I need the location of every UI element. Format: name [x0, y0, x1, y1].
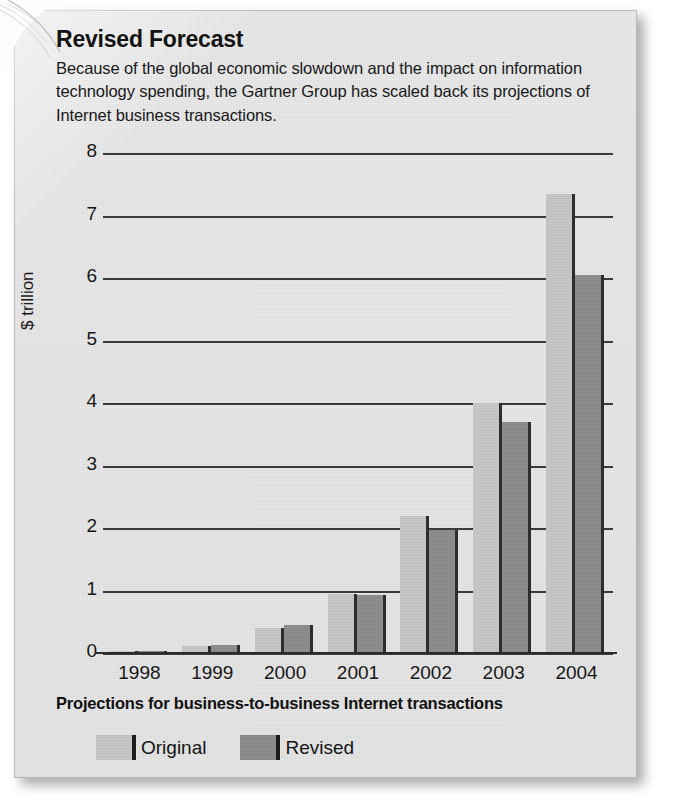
description-text: Because of the global economic slowdown … [56, 57, 596, 127]
y-axis-label: $ trillion [18, 271, 38, 330]
y-axis-tick-label: 3 [77, 453, 97, 475]
x-axis-tick-label: 2001 [322, 662, 395, 684]
bar-group [467, 153, 540, 653]
bar-original-2003 [473, 403, 502, 653]
x-axis-tick-label: 2000 [249, 662, 322, 684]
y-axis-tick-label: 5 [77, 328, 97, 350]
bar-original-2000 [255, 628, 284, 653]
bar-group [176, 153, 249, 653]
y-axis-tick-label: 0 [77, 640, 97, 662]
legend-swatch-original [96, 735, 136, 760]
x-axis-tick-label: 2003 [467, 662, 540, 684]
bar-revised-2001 [357, 595, 386, 653]
bar-group [394, 153, 467, 653]
legend-label: Revised [285, 737, 354, 759]
chart-legend: OriginalRevised [96, 735, 354, 760]
y-axis-tick-label: 1 [77, 578, 97, 600]
header-block: Revised Forecast Because of the global e… [56, 26, 596, 127]
bar-revised-2004 [575, 275, 604, 653]
x-axis-tick-label: 2004 [540, 662, 613, 684]
legend-swatch-revised [240, 735, 280, 760]
bar-revised-2002 [429, 530, 458, 653]
page-title: Revised Forecast [56, 26, 596, 53]
bar-group [322, 153, 395, 653]
y-axis-tick-label: 2 [77, 515, 97, 537]
bar-group [249, 153, 322, 653]
y-axis-tick-label: 8 [77, 140, 97, 162]
y-axis-tick-label: 7 [77, 203, 97, 225]
bar-original-2001 [328, 594, 357, 653]
bar-original-2004 [546, 194, 575, 653]
bar-group [103, 153, 176, 653]
y-axis-tick-label: 6 [77, 265, 97, 287]
chart-caption: Projections for business-to-business Int… [56, 694, 503, 713]
legend-item-original: Original [96, 735, 206, 760]
x-axis-line [95, 652, 617, 654]
y-axis-tick-label: 4 [77, 390, 97, 412]
x-axis-tick-label: 1999 [176, 662, 249, 684]
bar-revised-2000 [284, 625, 313, 653]
legend-item-revised: Revised [240, 735, 354, 760]
bar-original-2002 [400, 516, 429, 654]
bar-group [540, 153, 613, 653]
bar-revised-2003 [502, 422, 531, 653]
x-axis-tick-label: 2002 [394, 662, 467, 684]
x-axis-tick-label: 1998 [103, 662, 176, 684]
legend-label: Original [141, 737, 206, 759]
plot-area [103, 153, 613, 653]
